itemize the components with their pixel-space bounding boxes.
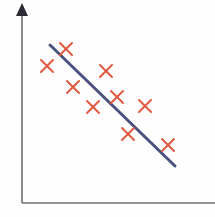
data-point-marker — [87, 101, 99, 113]
regression-line — [50, 45, 175, 166]
plot-canvas — [0, 0, 215, 217]
axes-group — [16, 3, 215, 203]
data-points-group — [41, 43, 174, 151]
data-point-marker — [100, 65, 112, 77]
y-axis-arrowhead-icon — [16, 3, 28, 16]
data-point-marker — [67, 81, 79, 93]
data-point-marker — [122, 128, 134, 140]
data-point-marker — [162, 139, 174, 151]
data-point-marker — [111, 91, 123, 103]
trendline-group — [50, 45, 175, 166]
scatter-plot-figure — [0, 0, 215, 217]
data-point-marker — [139, 100, 151, 112]
data-point-marker — [41, 60, 53, 72]
data-point-marker — [60, 43, 72, 55]
